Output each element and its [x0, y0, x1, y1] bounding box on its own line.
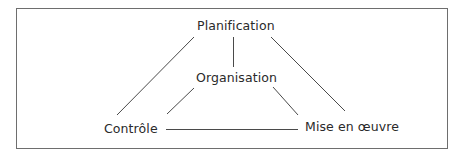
- edge-organisation-mise-en-oeuvre: [273, 87, 298, 115]
- node-planification: Planification: [197, 18, 275, 33]
- edge-planification-controle: [117, 37, 194, 115]
- edge-planification-mise-en-oeuvre: [271, 37, 345, 111]
- edge-organisation-controle: [167, 88, 194, 114]
- node-mise-en-oeuvre: Mise en œuvre: [305, 119, 399, 134]
- node-controle: Contrôle: [104, 121, 158, 136]
- node-organisation: Organisation: [196, 70, 277, 85]
